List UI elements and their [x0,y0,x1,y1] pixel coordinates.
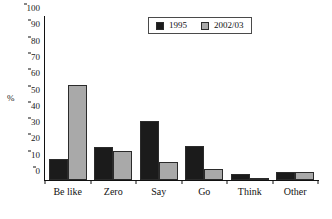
x-axis-tick-mark [318,180,319,184]
y-axis-tick-label: 0 [36,167,46,176]
bar [250,178,269,180]
y-axis-tick-mark [28,150,31,151]
bar-group [227,17,273,180]
y-axis-tick-mark [28,134,31,135]
x-axis-tick-mark [227,180,228,184]
bar-group [273,17,319,180]
y-axis-tick-mark [33,167,36,168]
x-axis-category-label: Other [273,186,319,198]
x-axis-tick-mark [45,180,46,184]
bar [204,169,223,180]
legend-item-2002-03: 2002/03 [201,21,244,30]
x-axis-labels: Be likeZeroSayGoThinkOther [45,186,318,198]
x-axis-category-label: Zero [91,186,137,198]
bar-chart: % 0102030405060708090100 Be likeZeroSayG… [0,0,332,219]
x-axis-category-label: Say [136,186,182,198]
x-axis-category-label: Go [182,186,228,198]
y-axis-tick-label: 90 [31,20,45,29]
plot-area: 0102030405060708090100 [45,17,318,180]
chart-legend: 1995 2002/03 [148,17,252,34]
bar-groups [45,17,318,180]
y-axis-tick-label: 20 [31,134,45,143]
legend-swatch-1995-icon [156,22,164,30]
bar [140,121,159,180]
bar [159,162,178,180]
bar [276,172,295,180]
y-axis-tick-mark [28,69,31,70]
y-axis-tick-label: 80 [31,36,45,45]
legend-item-1995: 1995 [156,21,187,30]
y-axis-tick-label: 30 [31,118,45,127]
bar [231,174,250,180]
bar [295,172,314,180]
y-axis-tick-mark [24,4,27,5]
y-axis-tick-mark [28,20,31,21]
y-axis-tick-mark [28,118,31,119]
bar-group [136,17,182,180]
y-axis-tick-mark [28,52,31,53]
y-axis-tick-label: 50 [31,85,45,94]
legend-label-2002-03: 2002/03 [214,21,244,30]
y-axis-tick-label: 70 [31,52,45,61]
bar-group [182,17,228,180]
x-axis-tick-mark [181,180,182,184]
x-axis-category-label: Think [227,186,273,198]
x-axis-tick-mark [136,180,137,184]
y-axis-tick-mark [28,101,31,102]
bar [185,146,204,180]
bar [68,85,87,180]
bar-group [91,17,137,180]
x-axis-tick-mark [90,180,91,184]
bar-group [45,17,91,180]
legend-swatch-2002-03-icon [201,22,209,30]
y-axis-tick-label: 60 [31,69,45,78]
bar [113,151,132,180]
y-axis-tick-mark [28,36,31,37]
bar [94,147,113,180]
bar [49,159,68,180]
y-axis-tick-label: 40 [31,101,45,110]
y-axis-tick-label: 100 [27,4,46,13]
y-axis-unit-label: % [7,94,15,103]
x-axis-tick-mark [272,180,273,184]
legend-label-1995: 1995 [169,21,187,30]
y-axis-tick-mark [28,85,31,86]
y-axis-tick-label: 10 [31,150,45,159]
x-axis-category-label: Be like [45,186,91,198]
